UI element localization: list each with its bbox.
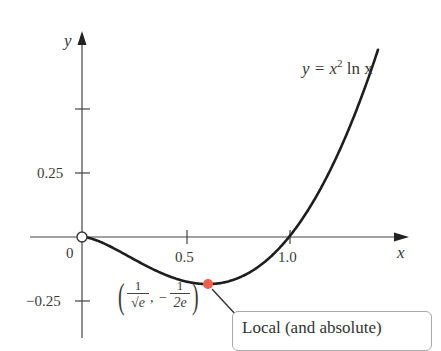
function-label-tail: ln x <box>343 59 373 78</box>
x-axis-arrow-icon <box>394 233 409 242</box>
fraction-2: 1 2e <box>170 279 190 312</box>
open-point-origin <box>77 232 87 242</box>
y-tick-label-0.25: 0.25 <box>37 166 63 181</box>
function-label: y = x2 ln x <box>302 58 373 77</box>
y-axis-label: y <box>64 32 72 49</box>
minimum-point <box>203 279 213 289</box>
fraction-1-den: √e <box>127 294 149 312</box>
minus-sign: − <box>159 290 167 306</box>
open-paren: ( <box>118 278 125 314</box>
callout-box: Local (and absolute) <box>232 311 432 351</box>
fraction-1-num: 1 <box>127 279 149 293</box>
fraction-1: 1 √e <box>127 279 149 312</box>
fraction-2-den: 2e <box>170 294 190 312</box>
y-tick-label-neg0.25: −0.25 <box>26 294 61 309</box>
fraction-2-num: 1 <box>170 279 190 293</box>
comma: , <box>150 290 154 306</box>
origin-label: 0 <box>66 246 74 261</box>
close-paren: ) <box>192 278 199 314</box>
y-axis-arrow-icon <box>78 31 87 45</box>
function-curve <box>82 50 378 284</box>
x-axis-label: x <box>397 244 405 261</box>
function-label-lhs: y = x <box>302 59 337 78</box>
x-tick-label-1.0: 1.0 <box>278 250 297 265</box>
x-tick-label-0.5: 0.5 <box>175 250 194 265</box>
